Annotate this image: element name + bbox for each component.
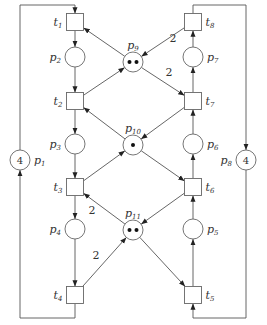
transition-t1[interactable]: [67, 14, 84, 31]
place-p4[interactable]: [65, 219, 85, 239]
p2-label: p2: [49, 51, 61, 65]
place-p6[interactable]: [183, 134, 203, 154]
token-count: 4: [17, 155, 23, 166]
t8-label: t8: [206, 16, 215, 30]
place-p7[interactable]: [183, 47, 203, 67]
t5-label: t5: [206, 289, 215, 303]
p6-label: p6: [207, 138, 219, 152]
p9-label: p9: [127, 39, 139, 53]
arc-t8-p9: [141, 28, 184, 57]
arc-weight-label: 2: [166, 66, 173, 79]
place-p11[interactable]: [123, 220, 143, 240]
arc-t3-p10: [84, 151, 125, 181]
transition-t8[interactable]: [185, 14, 202, 31]
arc-weight-label: 2: [93, 249, 100, 262]
transition-t4[interactable]: [67, 287, 84, 304]
p3-label: p3: [49, 138, 61, 152]
place-p2[interactable]: [65, 47, 85, 67]
p4-label: p4: [49, 223, 61, 237]
token-count: 4: [243, 155, 249, 166]
token-dot: [131, 143, 135, 147]
arc-weight-label: 2: [89, 204, 96, 217]
token-dot: [135, 60, 139, 64]
token-dot: [128, 60, 132, 64]
place-p9[interactable]: [123, 52, 143, 72]
t6-label: t6: [206, 181, 215, 195]
t7-label: t7: [206, 95, 215, 109]
arc-t7-p10: [141, 107, 184, 139]
arc-p11-t5: [140, 237, 185, 286]
t3-label: t3: [54, 181, 63, 195]
p5-label: p5: [207, 223, 219, 237]
token-dot: [128, 228, 132, 232]
transition-t5[interactable]: [185, 287, 202, 304]
token-dot: [135, 228, 139, 232]
transition-t6[interactable]: [185, 179, 202, 196]
arc-t2-p9: [84, 68, 125, 96]
p1-label: p1: [34, 154, 46, 168]
arc-p10-t6: [141, 151, 184, 181]
p10-label: p10: [125, 122, 142, 136]
arc-p9-t1: [84, 28, 125, 56]
place-p3[interactable]: [65, 134, 85, 154]
t1-label: t1: [54, 16, 63, 30]
petri-net-diagram: 2222 t1t2t3t4t5t6t7t84p1p2p3p4p5p6p74p8p…: [0, 0, 267, 325]
arc-p10-t2: [84, 107, 126, 139]
arc-p9-t7: [141, 67, 184, 95]
place-p5[interactable]: [183, 219, 203, 239]
p8-label: p8: [220, 154, 232, 168]
transition-t3[interactable]: [67, 179, 84, 196]
arc-t4-p11: [83, 237, 127, 286]
transition-t7[interactable]: [185, 93, 202, 110]
transition-t2[interactable]: [67, 93, 84, 110]
t2-label: t2: [54, 95, 63, 109]
p7-label: p7: [207, 51, 219, 65]
arc-t6-p11: [141, 193, 184, 224]
p11-label: p11: [125, 207, 141, 221]
t4-label: t4: [54, 289, 63, 303]
arc-weight-label: 2: [170, 32, 177, 45]
